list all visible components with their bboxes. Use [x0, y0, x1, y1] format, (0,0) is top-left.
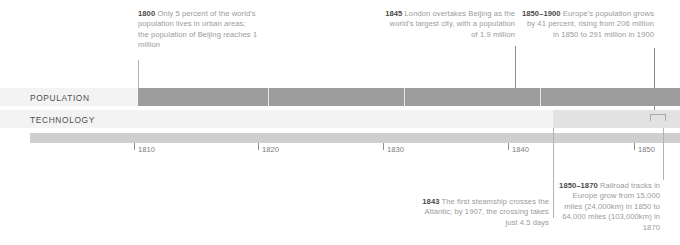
note-1843: 1843 The first steamship crosses the Atl… — [415, 197, 549, 228]
note-1845: 1845 London overtakes Beijing as the wor… — [381, 9, 515, 40]
population-row-label: POPULATION — [30, 93, 90, 103]
axis-tick-1830 — [383, 143, 384, 150]
axis-label-1810: 1810 — [138, 145, 155, 154]
note-1850-1870-year: 1850–1870 — [559, 181, 598, 190]
technology-bar-bracket — [650, 114, 666, 121]
timeline-infographic: { "rows": [ { "label": "POPULATION" }, {… — [0, 0, 680, 245]
note-1800-text: Only 5 percent of the world's population… — [138, 9, 257, 49]
axis-tick-1850 — [634, 143, 635, 150]
population-bar-seam-2 — [404, 88, 405, 106]
note-1800: 1800 Only 5 percent of the world's popul… — [138, 9, 258, 51]
population-bar — [138, 88, 680, 106]
timeline-axis-bar — [30, 133, 680, 143]
note-1850-1870: 1850–1870 Railroad tracks in Europe grow… — [558, 181, 660, 233]
population-bar-seam-1 — [268, 88, 269, 106]
note-1850-1900-year: 1850–1900 — [522, 9, 561, 18]
note-1850-1900: 1850–1900 Europe's population grows by 4… — [519, 9, 654, 40]
leader-line-1843 — [553, 128, 554, 218]
population-bar-seam-3 — [540, 88, 541, 106]
technology-row-label: TECHNOLOGY — [30, 115, 95, 125]
axis-tick-1810 — [134, 143, 135, 150]
note-1800-year: 1800 — [138, 9, 155, 18]
leader-line-1850-1900 — [654, 48, 655, 118]
axis-label-1820: 1820 — [262, 145, 279, 154]
note-1843-year: 1843 — [422, 197, 439, 206]
axis-label-1830: 1830 — [387, 145, 404, 154]
axis-label-1840: 1840 — [512, 145, 529, 154]
axis-label-1850: 1850 — [638, 145, 655, 154]
leader-line-1850-1870 — [663, 128, 664, 180]
note-1843-text: The first steamship crosses the Atlantic… — [425, 197, 549, 227]
axis-tick-1820 — [258, 143, 259, 150]
axis-tick-1840 — [508, 143, 509, 150]
note-1845-year: 1845 — [385, 9, 402, 18]
note-1845-text: London overtakes Beijing as the world's … — [390, 9, 515, 39]
